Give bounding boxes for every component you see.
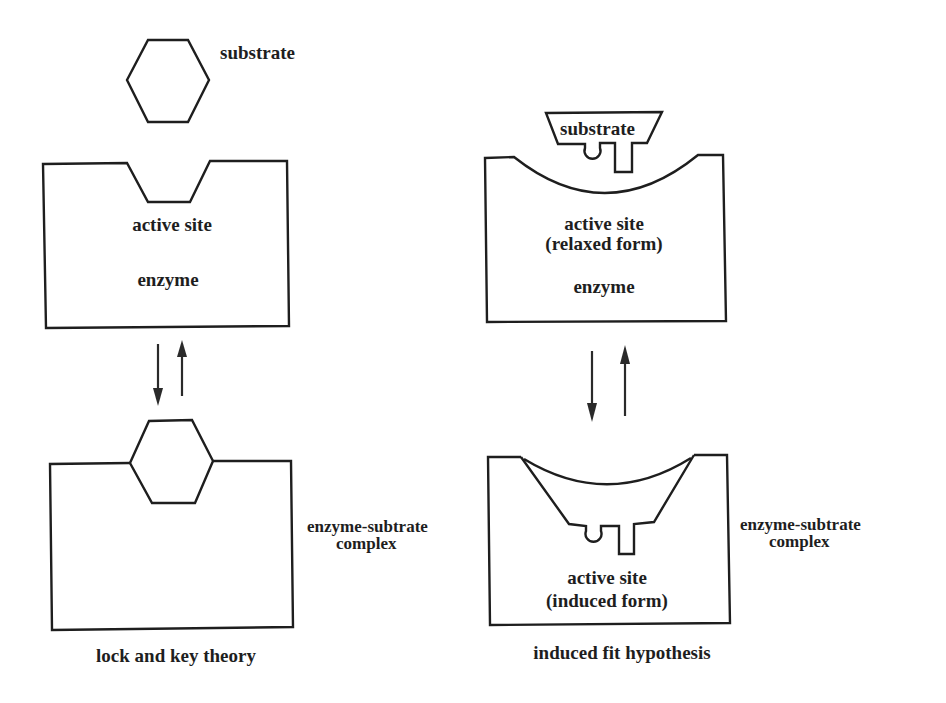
- down-arrowhead-icon: [153, 388, 163, 406]
- enzyme-label-induced: enzyme: [573, 276, 634, 297]
- substrate-label-induced: substrate: [560, 118, 635, 139]
- enzyme-shape-lock: [43, 161, 289, 328]
- down-arrowhead-icon: [587, 403, 597, 422]
- equilibrium-arrows-left: [153, 340, 187, 406]
- lock-and-key-caption: lock and key theory: [96, 645, 256, 666]
- enzyme-substrate-complex-lock: [50, 461, 293, 630]
- induced-fit-panel: substrate active site (relaxed form) enz…: [485, 112, 861, 663]
- bound-substrate-hexagon: [130, 420, 213, 503]
- up-arrowhead-icon: [620, 345, 630, 364]
- substrate-hexagon: [127, 40, 209, 122]
- active-site-relaxed-label: active site: [564, 213, 644, 234]
- enzyme-label: enzyme: [137, 269, 198, 290]
- enzyme-models-diagram: substrate active site enzyme enzyme-subt…: [0, 0, 946, 703]
- lock-and-key-panel: substrate active site enzyme enzyme-subt…: [43, 40, 428, 666]
- relaxed-form-label: (relaxed form): [545, 233, 662, 255]
- equilibrium-arrows-right: [587, 345, 630, 422]
- up-arrowhead-icon: [177, 340, 187, 357]
- complex-label-line2: complex: [336, 534, 397, 553]
- active-site-induced-label: active site: [567, 567, 647, 588]
- active-site-label: active site: [132, 214, 212, 235]
- induced-form-label: (induced form): [546, 590, 668, 612]
- bound-substrate-curve: [524, 458, 691, 484]
- induced-fit-caption: induced fit hypothesis: [533, 642, 710, 663]
- substrate-label: substrate: [220, 42, 295, 63]
- complex-label-line2-induced: complex: [769, 532, 830, 551]
